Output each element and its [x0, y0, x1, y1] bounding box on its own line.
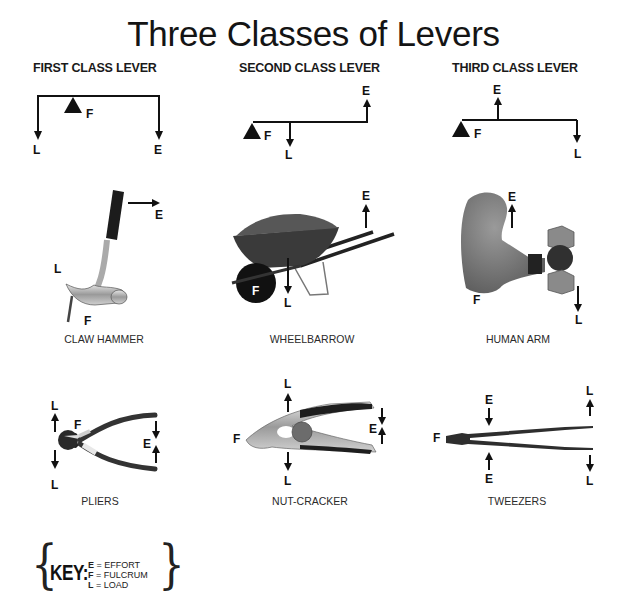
pliers-caption: PLIERS [20, 495, 180, 507]
claw-hammer-caption: CLAW HAMMER [24, 333, 184, 345]
nutcracker-load-top-label: L [284, 377, 291, 391]
pliers-load-top-label: L [51, 399, 58, 413]
tweezers-load-top-label: L [586, 384, 593, 398]
wheelbarrow-fulcrum-label: F [252, 284, 259, 298]
key-item-load: L = LOAD [88, 580, 128, 590]
nut-cracker-image [246, 393, 386, 471]
second-diagram-load-label: L [285, 148, 292, 162]
third-diagram-fulcrum-label: F [474, 127, 481, 141]
third-diagram-effort-label: E [493, 83, 501, 97]
hammer-load-label: L [54, 262, 61, 276]
third-diagram-load-label: L [574, 147, 581, 161]
wheelbarrow-load-label: L [284, 296, 291, 310]
tweezers-image [446, 399, 594, 472]
first-diagram-fulcrum-label: F [86, 107, 93, 121]
arm-load-label: L [575, 313, 582, 327]
nut-cracker-caption: NUT-CRACKER [230, 495, 390, 507]
first-class-diagram [34, 96, 163, 140]
second-diagram-fulcrum-label: F [264, 129, 271, 143]
tweezers-effort-top-label: E [485, 393, 493, 407]
pliers-load-bottom-label: L [51, 478, 58, 492]
tweezers-caption: TWEEZERS [437, 495, 597, 507]
tweezers-load-bottom-label: L [586, 474, 593, 488]
nutcracker-load-bottom-label: L [284, 474, 291, 488]
key-label: KEY: [50, 560, 88, 586]
wheelbarrow-caption: WHEELBARROW [232, 333, 392, 345]
arm-fulcrum-label: F [473, 293, 480, 307]
key-item-fulcrum: F = FULCRUM [88, 570, 148, 580]
wheelbarrow-effort-label: E [362, 189, 370, 203]
human-arm-caption: HUMAN ARM [438, 333, 598, 345]
key-close-brace: } [158, 538, 184, 590]
second-diagram-effort-label: E [362, 84, 370, 98]
hammer-effort-label: E [155, 208, 163, 222]
third-class-diagram [452, 97, 581, 143]
tweezers-fulcrum-label: F [433, 431, 440, 445]
hammer-fulcrum-label: F [84, 314, 91, 328]
key-item-effort: E = EFFORT [88, 560, 140, 570]
tweezers-effort-bottom-label: E [485, 472, 493, 486]
claw-hammer-image [66, 190, 160, 322]
nutcracker-fulcrum-label: F [233, 432, 240, 446]
second-class-diagram [243, 99, 371, 147]
arm-effort-label: E [508, 190, 516, 204]
first-diagram-effort-label: E [154, 143, 162, 157]
nutcracker-effort-label: E [369, 422, 377, 436]
pliers-effort-label: E [143, 437, 151, 451]
pliers-fulcrum-label: F [74, 418, 81, 432]
first-diagram-load-label: L [33, 143, 40, 157]
